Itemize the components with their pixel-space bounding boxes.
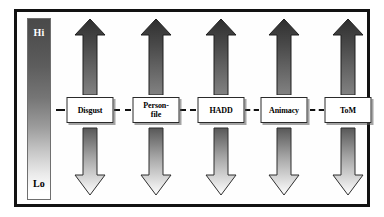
concept-box-disgust[interactable]: Disgust	[67, 97, 114, 123]
scale-high-label: Hi	[28, 28, 50, 38]
upward-arrow-icon	[332, 18, 364, 95]
downward-arrow-icon	[205, 127, 237, 196]
concept-label: Person- file	[143, 101, 169, 119]
concept-label: Disgust	[78, 106, 103, 115]
node-column-animacy: Animacy	[256, 0, 312, 217]
upward-arrow-icon	[74, 18, 106, 95]
downward-arrow-icon	[74, 127, 106, 196]
diagram-figure: Hi Lo Disgust	[0, 0, 384, 217]
node-column-disgust: Disgust	[62, 0, 118, 217]
node-column-personfile: Person- file	[128, 0, 184, 217]
concept-box-hadd[interactable]: HADD	[198, 97, 245, 123]
concept-label: ToM	[340, 106, 356, 115]
upward-arrow-icon	[140, 18, 172, 95]
concept-label: Animacy	[269, 106, 299, 115]
scale-low-label: Lo	[28, 179, 50, 189]
concept-box-tom[interactable]: ToM	[325, 97, 372, 123]
downward-arrow-icon	[140, 127, 172, 196]
upward-arrow-icon	[205, 18, 237, 95]
downward-arrow-icon	[268, 127, 300, 196]
concept-box-animacy[interactable]: Animacy	[261, 97, 308, 123]
node-column-hadd: HADD	[193, 0, 249, 217]
node-column-tom: ToM	[320, 0, 376, 217]
upward-arrow-icon	[268, 18, 300, 95]
concept-label: HADD	[209, 106, 232, 115]
gradient-scale-bar: Hi Lo	[27, 18, 51, 200]
concept-box-personfile[interactable]: Person- file	[133, 97, 180, 123]
downward-arrow-icon	[332, 127, 364, 196]
